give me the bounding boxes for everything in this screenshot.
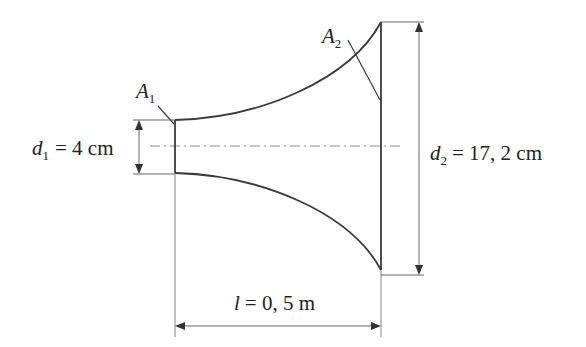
d1-arrow-top xyxy=(135,120,143,130)
A1-leader xyxy=(158,106,174,124)
d1-label: d1= 4 cm xyxy=(32,136,114,163)
l-label: l= 0, 5 m xyxy=(234,291,315,315)
d2-label: d2= 17, 2 cm xyxy=(430,141,542,168)
A2-leader xyxy=(348,40,380,100)
l-arrow-left xyxy=(175,322,185,330)
horn-lower-curve xyxy=(175,173,381,270)
horn-diagram: A1 A2 d1= 4 cm d2= 17, 2 cm l= 0, 5 m xyxy=(0,0,586,347)
d1-arrow-bottom xyxy=(135,164,143,174)
d2-arrow-top xyxy=(415,22,423,32)
A1-label: A1 xyxy=(134,79,155,106)
A2-label: A2 xyxy=(320,24,341,51)
l-arrow-right xyxy=(371,322,381,330)
horn-upper-curve xyxy=(175,22,381,120)
d2-arrow-bottom xyxy=(415,265,423,275)
